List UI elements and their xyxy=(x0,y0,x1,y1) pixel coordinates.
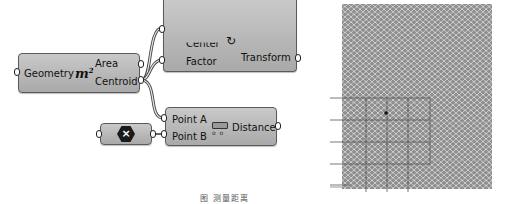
grid-overlay xyxy=(0,0,506,204)
figure-caption: 图 测量距离 xyxy=(200,192,249,203)
centroid-point xyxy=(384,111,388,115)
